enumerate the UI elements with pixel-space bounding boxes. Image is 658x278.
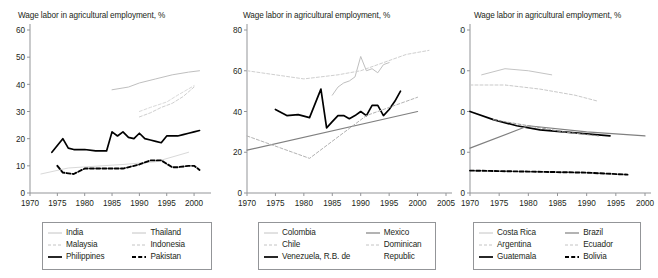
legend-asia: IndiaMalaysiaPhilippines ThailandIndones… [42,222,212,270]
svg-text:0: 0 [20,189,25,198]
svg-text:1985: 1985 [548,199,567,208]
svg-text:30: 30 [16,108,26,117]
legend-label: Venezuela, R.B. de [282,252,350,262]
legend-entry[interactable]: Chile [264,239,358,251]
legend-label: Argentina [497,240,531,250]
legend-entry[interactable]: Pakistan [132,251,205,263]
svg-text:80: 80 [460,26,465,35]
figure-root: Wage labor in agricultural employment, %… [0,0,658,278]
svg-text:1995: 1995 [380,199,399,208]
svg-text:1975: 1975 [48,199,67,208]
svg-text:1990: 1990 [578,199,597,208]
legend-label: Guatemala [497,252,536,262]
svg-text:1985: 1985 [103,199,122,208]
legend-label: Bolivia [583,252,606,262]
legend-entry[interactable]: Guatemala [479,251,557,263]
svg-text:10: 10 [16,162,26,171]
legend-label: Thailand [150,228,181,238]
legend-line-swatch-icon [565,240,579,250]
legend-entry[interactable]: Mexico [366,227,429,239]
svg-text:20: 20 [233,148,243,157]
svg-text:20: 20 [16,135,26,144]
legend-entry[interactable]: Bolivia [565,251,634,263]
legend-line-swatch-icon [479,240,493,250]
legend-entry[interactable]: Brazil [565,227,634,239]
legend-entry[interactable]: Colombia [264,227,358,239]
legend-line-swatch-icon [48,252,62,262]
legend-label: Pakistan [150,252,181,262]
legend-line-swatch-icon [48,228,62,238]
svg-text:1990: 1990 [130,199,149,208]
series-line-chile [247,50,429,79]
legend-line-swatch-icon [132,252,146,262]
legend-line-swatch-icon [565,252,579,262]
legend-line-swatch-icon [132,240,146,250]
series-line-thailand [112,71,200,90]
series-line-argentina [470,85,598,101]
legend-column-left: IndiaMalaysiaPhilippines [48,227,124,263]
legend-latam-north: ColombiaChileVenezuela, R.B. de MexicoDo… [258,222,436,270]
svg-text:50: 50 [16,53,26,62]
legend-latam-south: Costa RicaArgentinaGuatemala BrazilEcuad… [473,222,641,270]
legend-entry[interactable]: Ecuador [565,239,634,251]
legend-entry[interactable]: Argentina [479,239,557,251]
legend-label: India [66,228,83,238]
svg-text:1980: 1980 [519,199,538,208]
chart-panel-asia: Wage labor in agricultural employment, %… [0,0,225,278]
legend-label: Ecuador [583,240,613,250]
svg-text:60: 60 [16,26,26,35]
svg-text:2005: 2005 [437,199,456,208]
series-line-colombia [332,56,389,95]
legend-entry[interactable]: Dominican [366,239,429,251]
series-line-costa-rica [482,69,552,75]
svg-text:2000: 2000 [408,199,427,208]
legend-column-right: ThailandIndonesiaPakistan [132,227,205,263]
series-line-dominican-republic [247,97,418,158]
series-line-brazil [470,126,645,148]
legend-entry[interactable]: Thailand [132,227,205,239]
legend-line-swatch-icon [479,228,493,238]
series-line-bolivia [470,171,628,175]
legend-column-right: MexicoDominicanRepublic [366,227,429,263]
svg-text:1985: 1985 [323,199,342,208]
series-line-venezuela-r-b-de [275,89,400,128]
legend-entry[interactable]: Venezuela, R.B. de [264,251,358,263]
svg-text:0: 0 [237,189,242,198]
legend-column-right: BrazilEcuadorBolivia [565,227,634,263]
legend-line-swatch-icon [132,228,146,238]
legend-line-swatch-icon [479,252,493,262]
series-line-indonesia [139,87,194,117]
svg-text:0: 0 [460,189,465,198]
legend-entry[interactable]: Malaysia [48,239,124,251]
legend-label: Mexico [384,228,409,238]
svg-text:40: 40 [233,108,243,117]
legend-label: Indonesia [150,240,185,250]
legend-line-swatch-icon [366,240,380,250]
legend-label: Malaysia [66,240,98,250]
legend-entry[interactable]: Indonesia [132,239,205,251]
legend-line-swatch-icon [264,228,278,238]
legend-line-swatch-icon [264,240,278,250]
svg-text:1980: 1980 [295,199,314,208]
svg-text:80: 80 [233,26,243,35]
legend-label: Chile [282,240,300,250]
legend-line-swatch-icon [48,240,62,250]
legend-label: Brazil [583,228,603,238]
svg-text:1970: 1970 [461,199,480,208]
legend-entry[interactable]: Philippines [48,251,124,263]
svg-text:1980: 1980 [76,199,95,208]
svg-text:1995: 1995 [158,199,177,208]
svg-text:60: 60 [460,67,465,76]
svg-text:1995: 1995 [607,199,626,208]
svg-text:2000: 2000 [185,199,204,208]
legend-label: Costa Rica [497,228,536,238]
svg-text:1975: 1975 [266,199,285,208]
legend-entry[interactable]: India [48,227,124,239]
svg-text:1990: 1990 [352,199,371,208]
legend-entry[interactable]: Republic [366,251,429,263]
legend-line-swatch-icon [264,252,278,262]
legend-entry[interactable]: Costa Rica [479,227,557,239]
legend-column-left: ColombiaChileVenezuela, R.B. de [264,227,358,263]
series-line-philippines [52,131,200,153]
svg-text:2000: 2000 [636,199,655,208]
